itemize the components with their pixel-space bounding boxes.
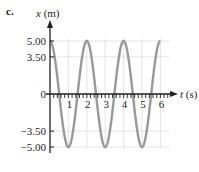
x-axis-arrow-icon (170, 91, 178, 97)
x-tick-label: 1 (67, 98, 73, 110)
x-tick-label: 3 (103, 98, 109, 110)
x-tick-label: 4 (122, 98, 128, 110)
axes (46, 20, 178, 153)
y-tick-label: 5.00 (27, 35, 47, 47)
chart: 1234565.003.500−3.50−5.00x (m)t (s) (0, 0, 199, 172)
y-tick-label: 0 (41, 88, 47, 100)
x-axis-title: t (s) (180, 88, 198, 101)
y-tick-label: −3.50 (21, 125, 47, 137)
x-tick-label: 5 (140, 98, 146, 110)
y-tick-label: 3.50 (27, 51, 47, 63)
x-tick-label: 2 (85, 98, 91, 110)
y-tick-label: −5.00 (21, 141, 47, 153)
y-axis-arrow-icon (47, 20, 53, 28)
y-axis-title: x (m) (35, 7, 60, 20)
x-tick-label: 6 (159, 98, 165, 110)
